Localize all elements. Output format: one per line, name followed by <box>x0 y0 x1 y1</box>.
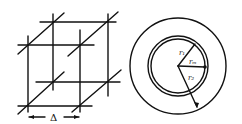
radius-endpoint <box>203 65 207 69</box>
figure: Δ r₁ rₘ r₂ <box>0 0 242 124</box>
label-r2: r₂ <box>188 74 194 82</box>
cubic-lattice: Δ <box>18 12 121 123</box>
label-r1: r₁ <box>179 49 185 57</box>
arrowhead <box>29 115 34 119</box>
lattice-line <box>18 72 64 114</box>
delta-label: Δ <box>50 112 57 123</box>
radius-r2 <box>178 66 197 107</box>
concentric-circles: r₁ rₘ r₂ <box>130 18 226 114</box>
lattice-line <box>18 13 64 54</box>
arrowhead <box>74 115 79 119</box>
radius-rm <box>178 66 205 67</box>
label-rm: rₘ <box>189 58 197 66</box>
lattice-line <box>68 12 118 56</box>
